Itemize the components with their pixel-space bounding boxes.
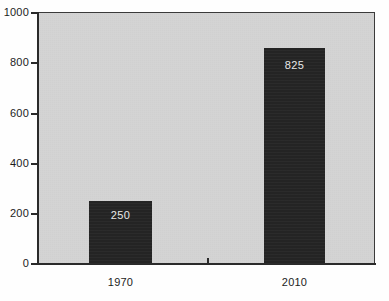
bar-1970[interactable]: 250 bbox=[89, 201, 152, 264]
y-tick-mark-0 bbox=[31, 263, 38, 265]
bar-value-label-1970: 250 bbox=[89, 210, 152, 221]
y-tick-mark-1000 bbox=[31, 12, 38, 14]
y-tick-label-600: 600 bbox=[10, 108, 29, 119]
x-tick-mark-center bbox=[207, 258, 209, 265]
y-tick-label-400: 400 bbox=[10, 158, 29, 169]
y-tick-mark-800 bbox=[31, 62, 38, 64]
y-tick-label-200: 200 bbox=[10, 208, 29, 219]
y-tick-label-1000: 1000 bbox=[4, 7, 29, 18]
x-tick-label-1970: 1970 bbox=[89, 277, 152, 288]
bar-value-label-2010: 825 bbox=[264, 60, 325, 71]
bar-2010[interactable]: 825 bbox=[264, 48, 325, 264]
y-tick-label-0: 0 bbox=[23, 258, 29, 269]
bar-chart: 1000 800 600 400 200 0 250 825 1970 2010 bbox=[0, 0, 389, 301]
y-tick-mark-400 bbox=[31, 163, 38, 165]
y-tick-mark-200 bbox=[31, 213, 38, 215]
y-axis-line bbox=[37, 12, 39, 265]
bar-texture bbox=[264, 48, 325, 264]
y-tick-label-800: 800 bbox=[10, 57, 29, 68]
y-tick-mark-600 bbox=[31, 113, 38, 115]
x-tick-label-2010: 2010 bbox=[264, 277, 325, 288]
